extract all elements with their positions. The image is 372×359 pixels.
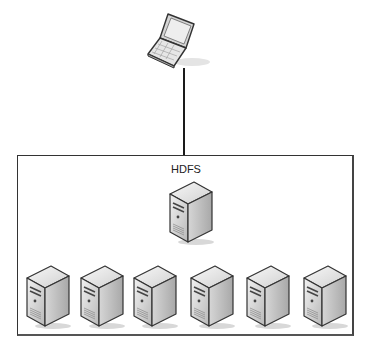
connection-line bbox=[183, 68, 185, 156]
server-icon bbox=[189, 264, 235, 330]
server-icon bbox=[168, 180, 214, 246]
server-icon bbox=[302, 264, 348, 330]
hdfs-label: HDFS bbox=[0, 163, 372, 175]
laptop-icon bbox=[146, 10, 216, 72]
server-icon bbox=[79, 264, 125, 330]
server-icon bbox=[245, 264, 291, 330]
server-icon bbox=[25, 264, 71, 330]
server-icon bbox=[132, 264, 178, 330]
